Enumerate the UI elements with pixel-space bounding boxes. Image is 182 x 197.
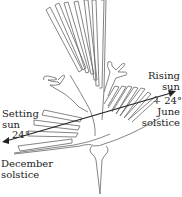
nazca-diagram: Rising sun + 24° June solstice Setting s…	[0, 0, 182, 197]
june-solstice-label: June solstice	[136, 106, 180, 128]
rising-line2: sun	[136, 81, 180, 92]
june-line2: solstice	[136, 117, 180, 128]
setting-sun-label: Setting sun	[2, 108, 39, 130]
rising-line1: Rising	[136, 70, 180, 81]
june-angle-label: + 24°	[140, 95, 182, 106]
december-line1: December	[1, 158, 53, 169]
setting-line1: Setting	[2, 108, 39, 119]
rising-sun-label: Rising sun	[136, 70, 180, 92]
tail-feathers	[46, 0, 104, 88]
december-angle-label: 24°	[12, 129, 30, 140]
december-line2: solstice	[1, 169, 53, 180]
head-beak	[90, 146, 108, 194]
june-line1: June	[136, 106, 180, 117]
december-solstice-label: December solstice	[1, 158, 53, 180]
